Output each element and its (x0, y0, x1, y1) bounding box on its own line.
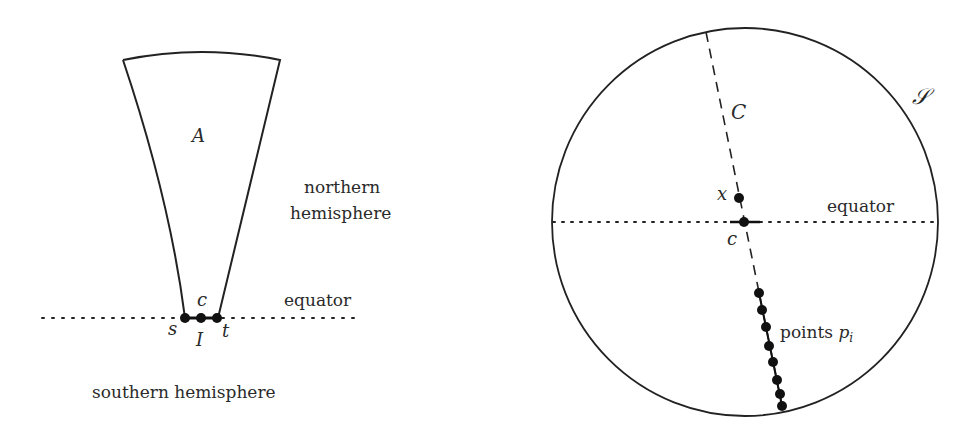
points-pi-label: points pi (780, 322, 853, 345)
point-c-right (739, 217, 749, 227)
points-sub: i (849, 331, 853, 345)
point-c-label-left: c (197, 289, 207, 310)
point-s-label: s (168, 318, 177, 339)
region-a-label: A (190, 125, 205, 146)
interval-i-label: I (195, 329, 204, 350)
point-c (196, 313, 206, 323)
points-word: points (780, 322, 838, 342)
northern-hemisphere-label-1: northern (304, 177, 380, 197)
points-p-i (754, 288, 787, 411)
equator-label-left: equator (284, 290, 352, 310)
right-panel: 𝒮 C x c equator points pi (552, 28, 938, 416)
point-t (212, 313, 222, 323)
diagram-canvas: A northern hemisphere equator c s t I so… (0, 0, 973, 444)
point-s (180, 313, 190, 323)
region-a-outline (123, 52, 280, 318)
point-c-label-right: c (727, 228, 737, 249)
point-x-label: x (717, 183, 727, 204)
points-var: p (838, 322, 849, 342)
northern-hemisphere-label-2: hemisphere (290, 203, 391, 223)
point-x (734, 193, 744, 203)
southern-hemisphere-label: southern hemisphere (92, 382, 276, 402)
left-panel: A northern hemisphere equator c s t I so… (42, 52, 391, 402)
sphere-s-label: 𝒮 (912, 84, 935, 109)
point-t-label: t (222, 320, 230, 341)
equator-label-right: equator (827, 196, 895, 216)
curve-c-label: C (731, 100, 746, 124)
